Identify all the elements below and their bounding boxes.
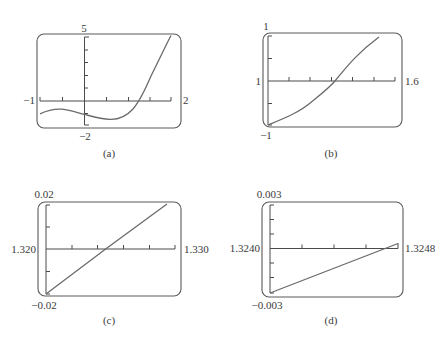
panel-c-xmax-label: 1.330 [184, 243, 209, 255]
panel-a-xmin-label: −1 [23, 94, 35, 106]
panel-b-frame [263, 33, 402, 127]
panel-c: 0.02 −0.02 1.320 1.330 (c) [11, 188, 209, 327]
panel-b-xmin-label: 1 [256, 75, 262, 87]
panel-d-curve [270, 244, 398, 294]
panel-d-ymax-label: 0.003 [257, 188, 282, 200]
panel-d-ymin-label: −0.003 [252, 299, 283, 311]
panel-a-caption: (a) [103, 147, 116, 160]
panel-d: 0.003 −0.003 1.3240 1.3248 (d) [230, 188, 436, 327]
panel-a-curve [40, 36, 171, 120]
panel-c-x-ticks [72, 245, 175, 249]
panel-a-xmax-label: 2 [183, 94, 189, 106]
panel-d-xmax-label: 1.3248 [405, 242, 436, 254]
panel-d-caption: (d) [325, 314, 338, 327]
panel-a: 5 −2 −1 2 (a) [23, 22, 188, 160]
panel-a-frame [37, 34, 181, 128]
panel-c-ymax-label: 0.02 [34, 188, 53, 200]
panel-c-caption: (c) [103, 314, 116, 327]
panel-a-ymin-label: −2 [79, 130, 91, 142]
panel-b-xmax-label: 1.6 [405, 75, 419, 87]
panel-b: 1 −1 1 1.6 (b) [256, 20, 420, 160]
panel-d-xmin-label: 1.3240 [230, 242, 261, 254]
panel-b-caption: (b) [325, 147, 338, 160]
panel-a-y-ticks [85, 37, 90, 125]
panel-b-x-ticks [289, 77, 395, 81]
panel-a-ymax-label: 5 [81, 22, 87, 34]
panel-d-x-ticks [302, 243, 398, 249]
figure-canvas: 5 −2 −1 2 (a) 1 −1 1 1.6 (b) [0, 0, 443, 337]
panel-c-xmin-label: 1.320 [11, 243, 36, 255]
panel-a-x-ticks [40, 97, 171, 101]
panel-c-ymin-label: −0.02 [31, 299, 56, 311]
panel-b-ymin-label: −1 [260, 129, 272, 141]
panel-b-ymax-label: 1 [263, 20, 269, 32]
